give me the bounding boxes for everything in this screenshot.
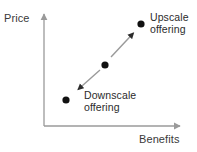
downscale-arrow [78,70,100,90]
annotation-upscale-line2: offering [150,24,189,36]
data-point-mid [101,61,108,68]
data-point-high [137,20,144,27]
upscale-arrow [111,33,134,57]
chart-canvas: Price Benefits Upscale offering Downscal… [0,0,197,152]
annotation-downscale-line2: offering [84,102,136,114]
annotation-upscale-offering: Upscale offering [150,12,189,35]
data-point-low [62,96,69,103]
annotation-downscale-line1: Downscale [84,90,136,102]
y-axis-label: Price [4,12,30,24]
annotation-upscale-line1: Upscale [150,12,189,24]
x-axis-label: Benefits [139,133,180,145]
annotation-downscale-offering: Downscale offering [84,90,136,113]
